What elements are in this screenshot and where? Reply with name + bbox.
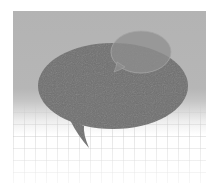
small-speech-bubble-icon — [111, 31, 171, 73]
speech-bubbles-illustration — [0, 0, 206, 191]
